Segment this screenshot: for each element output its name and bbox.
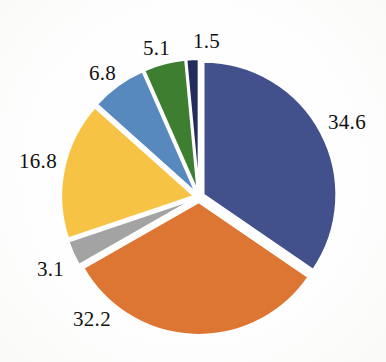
- pie-label-green: 5.1: [143, 38, 170, 59]
- pie-label-dark-navy: 1.5: [193, 31, 220, 52]
- pie-label-gray: 3.1: [37, 259, 64, 280]
- pie-chart: 34.6 32.2 3.1 16.8 6.8 5.1 1.5: [0, 0, 386, 362]
- pie-label-yellow: 16.8: [19, 151, 57, 172]
- pie-slices: [61, 59, 336, 335]
- pie-chart-canvas: [0, 0, 386, 362]
- pie-label-navy: 34.6: [328, 112, 366, 133]
- pie-label-orange: 32.2: [73, 309, 111, 330]
- pie-label-steel-blue: 6.8: [89, 63, 116, 84]
